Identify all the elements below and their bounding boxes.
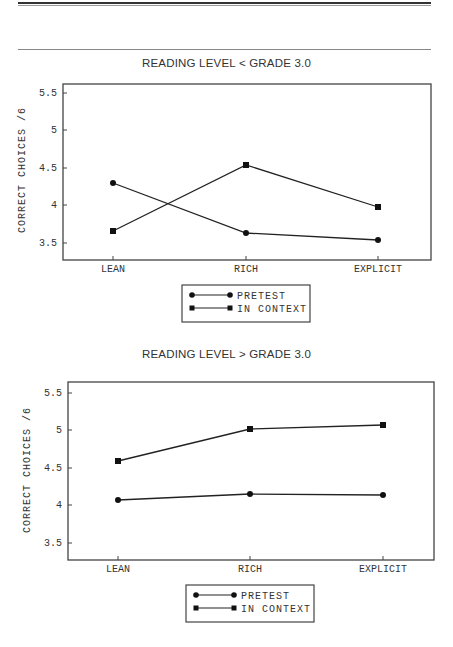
circle-marker-icon bbox=[227, 292, 233, 298]
chart-1-legend: PRETEST IN CONTEXT bbox=[182, 285, 310, 322]
data-point bbox=[247, 426, 253, 432]
chart-2-series-pretest bbox=[115, 491, 386, 503]
charts-canvas: 5.5 5 4.5 4 3.5 CORRECT CHOICES /6 LEAN … bbox=[0, 0, 453, 647]
square-marker-icon bbox=[228, 306, 233, 311]
square-marker-icon bbox=[232, 606, 237, 611]
chart-1-ytick: 5.5 bbox=[39, 88, 57, 99]
chart-1-xtick: LEAN bbox=[101, 264, 125, 275]
legend-label: PRETEST bbox=[237, 291, 286, 302]
data-point bbox=[243, 162, 249, 168]
data-point bbox=[380, 422, 386, 428]
chart-2: 5.5 5 4.5 4 3.5 CORRECT CHOICES /6 LEAN … bbox=[22, 382, 434, 622]
chart-2-ytick: 5 bbox=[56, 425, 62, 436]
data-point bbox=[110, 180, 116, 186]
chart-1-series-in-context bbox=[110, 162, 381, 234]
data-point bbox=[375, 237, 381, 243]
chart-1-xtick: EXPLICIT bbox=[354, 264, 402, 275]
chart-1: 5.5 5 4.5 4 3.5 CORRECT CHOICES /6 LEAN … bbox=[17, 84, 431, 322]
chart-2-y-label: CORRECT CHOICES /6 bbox=[22, 407, 33, 533]
chart-1-y-label: CORRECT CHOICES /6 bbox=[17, 107, 28, 233]
chart-2-legend: PRETEST IN CONTEXT bbox=[186, 585, 314, 622]
legend-label: PRETEST bbox=[241, 591, 290, 602]
chart-2-ytick: 3.5 bbox=[44, 538, 62, 549]
chart-2-xtick: EXPLICIT bbox=[359, 564, 407, 575]
chart-1-xtick: RICH bbox=[234, 264, 258, 275]
chart-2-ytick: 4 bbox=[56, 500, 62, 511]
chart-2-x-axis: LEAN RICH EXPLICIT bbox=[106, 556, 407, 575]
chart-1-x-axis: LEAN RICH EXPLICIT bbox=[101, 256, 402, 275]
chart-1-ytick: 4 bbox=[51, 200, 57, 211]
square-marker-icon bbox=[190, 306, 195, 311]
chart-2-xtick: LEAN bbox=[106, 564, 130, 575]
data-point bbox=[115, 497, 121, 503]
chart-2-plot-frame bbox=[68, 382, 434, 560]
data-point bbox=[243, 230, 249, 236]
chart-1-ytick: 5 bbox=[51, 125, 57, 136]
chart-2-ytick: 5.5 bbox=[44, 388, 62, 399]
chart-2-series-in-context bbox=[115, 422, 386, 464]
chart-1-series-pretest bbox=[110, 180, 381, 243]
chart-1-y-axis: 5.5 5 4.5 4 3.5 CORRECT CHOICES /6 bbox=[17, 88, 67, 249]
chart-1-ytick: 3.5 bbox=[39, 238, 57, 249]
chart-1-ytick: 4.5 bbox=[39, 163, 57, 174]
data-point bbox=[110, 228, 116, 234]
square-marker-icon bbox=[194, 606, 199, 611]
legend-label: IN CONTEXT bbox=[241, 604, 311, 615]
circle-marker-icon bbox=[231, 592, 237, 598]
data-point bbox=[247, 491, 253, 497]
chart-2-ytick: 4.5 bbox=[44, 463, 62, 474]
circle-marker-icon bbox=[189, 292, 195, 298]
data-point bbox=[115, 458, 121, 464]
circle-marker-icon bbox=[193, 592, 199, 598]
legend-label: IN CONTEXT bbox=[237, 304, 307, 315]
chart-2-y-axis: 5.5 5 4.5 4 3.5 CORRECT CHOICES /6 bbox=[22, 388, 72, 549]
data-point bbox=[380, 492, 386, 498]
chart-2-xtick: RICH bbox=[238, 564, 262, 575]
data-point bbox=[375, 204, 381, 210]
